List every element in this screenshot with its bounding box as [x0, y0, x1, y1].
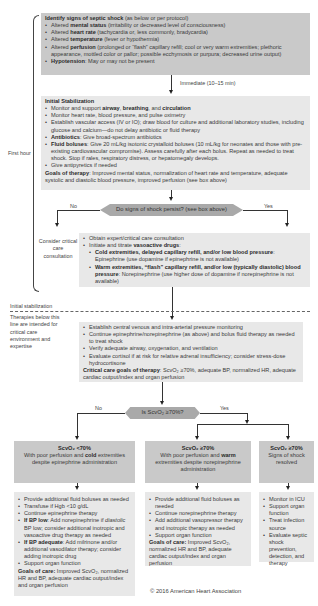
therapies-note: Therapies below this line are intended f…	[10, 314, 62, 350]
arrow-down-icon	[286, 436, 290, 440]
list-item: Evaluate septic shock prevention, detect…	[263, 532, 310, 568]
list-item: Establish central venous and intra-arter…	[83, 324, 299, 331]
list-item: Antibiotics: Give broad-spectrum antibio…	[45, 134, 306, 141]
list-item: Altered mental status (irritability or d…	[45, 22, 306, 29]
arrow-down-icon	[285, 223, 289, 227]
identify-list: Altered mental status (irritability or d…	[45, 22, 306, 65]
decision-shock-persist: Do signs of shock persist? (see box abov…	[100, 204, 243, 216]
connector-line	[77, 413, 125, 414]
outcome-box-low-scvo2: ScvO₂ <70% With poor perfusion and cold …	[14, 441, 135, 483]
list-item: Monitor in ICU	[263, 496, 310, 503]
vasoactive-drugs-box: Obtain expert/critical care consultation…	[79, 233, 310, 287]
arrow-down-icon	[169, 90, 173, 94]
yes-label: Yes	[220, 405, 229, 412]
list-item: Initiate and titrate vasoactive drugs:	[83, 242, 306, 249]
list-item: Monitor heart rate, blood pressure, and …	[45, 112, 306, 119]
care-box-left: Provide additional fluid boluses as need…	[14, 492, 135, 596]
identify-title: Identify signs of septic shock	[45, 15, 123, 21]
list-item: Verify adequate airway, oxygenation, and…	[83, 345, 299, 352]
arrow-down-icon	[75, 436, 79, 440]
arrow-down-icon	[160, 401, 164, 405]
list-item: Transfuse if Hgb <10 g/dL	[18, 503, 131, 510]
initial-stabilization-box: Initial Stabilization Monitor and suppor…	[41, 96, 310, 190]
list-item: Hypotension: May or may not be present	[45, 58, 306, 65]
list-item: Altered heart rate (tachycardia or, less…	[45, 29, 306, 36]
list-item: Evaluate cortisol if at risk for relativ…	[83, 353, 299, 367]
critical-care-divider	[10, 311, 310, 312]
care-box-middle: Provide additional fluid boluses as need…	[145, 492, 251, 566]
connector-line	[200, 413, 247, 414]
arrow-down-icon	[55, 223, 59, 227]
list-item: Provide additional fluid boluses as need…	[149, 496, 247, 510]
list-item: Provide additional fluid boluses as need…	[18, 496, 131, 503]
first-hour-label: First hour	[8, 150, 32, 157]
no-label: No	[70, 203, 77, 210]
list-item: Add additional vasopressor therapy and i…	[149, 517, 247, 531]
arrow-down-icon	[195, 436, 199, 440]
connector-line	[172, 287, 173, 317]
list-item: Cold extremities, delayed capillary refi…	[83, 249, 306, 263]
connector-line	[77, 413, 78, 437]
identify-signs-box: Identify signs of septic shock (as below…	[41, 13, 310, 75]
no-label: No	[95, 405, 102, 412]
arrow-down-icon	[75, 486, 79, 490]
consider-consultation-label: Consider critical care consultation	[38, 238, 78, 260]
initial-stabilization-label: Initial stabilization	[10, 303, 52, 310]
list-item: Warm extremities, “flash” capillary refi…	[83, 264, 306, 285]
care-box-right: Monitor in ICU Support organ function Tr…	[259, 492, 314, 562]
goals-label: Goals of therapy	[45, 170, 89, 176]
list-item: Support organ function	[263, 503, 310, 517]
yes-label: Yes	[264, 203, 273, 210]
connector-line	[57, 210, 100, 211]
connector-line	[197, 424, 288, 425]
list-item: Obtain expert/critical care consultation	[83, 235, 306, 242]
connector-line	[162, 382, 163, 402]
critical-care-box: Establish central venous and intra-arter…	[79, 322, 303, 382]
list-item: Support organ function	[149, 532, 247, 539]
list-item: Continue epinephrine therapy	[18, 510, 131, 517]
arrow-down-icon	[195, 486, 199, 490]
list-item: Altered temperature (fever or hypothermi…	[45, 36, 306, 43]
list-item: Altered perfusion (prolonged or “flash” …	[45, 44, 306, 58]
list-item: Treat infection source	[263, 517, 310, 531]
list-item: Continue norepinephrine therapy	[149, 510, 247, 517]
immediate-label: Immediate (10–15 min)	[180, 80, 235, 87]
copyright: © 2016 American Heart Association	[150, 588, 241, 595]
arrow-down-icon	[170, 316, 174, 320]
list-item: Give antipyretics if needed	[45, 162, 306, 169]
decision-scvo2: Is ScvO₂ ≥70%?	[125, 407, 200, 419]
outcome-box-high-scvo2-warm: ScvO₂ ≥70% With poor perfusion and warm …	[145, 441, 251, 483]
list-item: Support organ function	[18, 560, 131, 567]
list-item: Establish vascular access (IV or IO); dr…	[45, 119, 306, 133]
list-item: Fluid boluses: Give 20 mL/kg isotonic cr…	[45, 141, 306, 162]
list-item: Continue epinephrine/norepinephrine (as …	[83, 331, 299, 345]
arrow-down-icon	[169, 197, 173, 201]
connector-line	[57, 210, 58, 224]
critical-goals-label: Critical care goals of therapy	[83, 367, 160, 373]
connector-line	[287, 210, 288, 224]
connector-line	[243, 210, 287, 211]
list-item: Monitor and support airway, breathing, a…	[45, 105, 306, 112]
outcome-box-shock-resolved: ScvO₂ ≥70% Signs of shock resolved	[259, 441, 314, 483]
list-item: If BP adequate: Add milrinone and/or add…	[18, 539, 131, 560]
connector-line	[171, 75, 172, 91]
arrow-down-icon	[286, 486, 290, 490]
stabilization-title: Initial Stabilization	[45, 98, 306, 105]
list-item: If BP low: Add norepinephrine if diastol…	[18, 517, 131, 538]
